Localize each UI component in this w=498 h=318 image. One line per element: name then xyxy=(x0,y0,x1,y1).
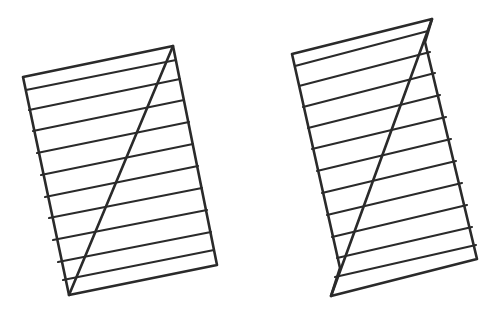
stripe-line xyxy=(53,210,207,240)
stripe-line xyxy=(37,122,189,153)
stripe-line xyxy=(335,245,476,277)
illusion-diagram xyxy=(0,0,498,318)
diagonal-line xyxy=(331,19,432,296)
stripe-line xyxy=(58,232,211,262)
diagonal-line xyxy=(69,46,173,295)
right-parallelogram-figure xyxy=(292,19,477,296)
stripe-line xyxy=(41,144,193,175)
left-parallelogram-figure xyxy=(23,46,217,295)
diagram-canvas xyxy=(0,0,498,318)
